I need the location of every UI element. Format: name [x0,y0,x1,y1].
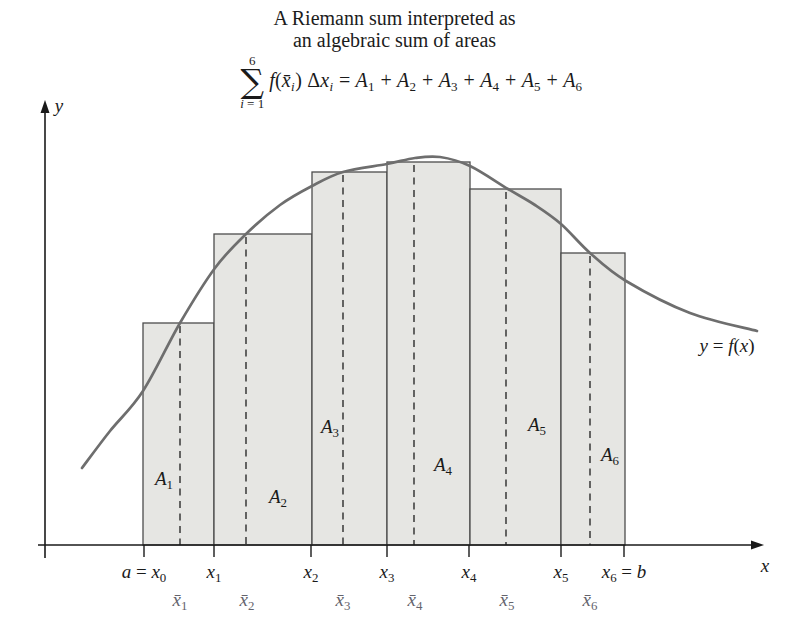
x-tick-label-3: x3 [379,561,395,585]
riemann-sum-figure: A Riemann sum interpreted as an algebrai… [0,0,789,623]
sample-point-label-2: x̄2 [239,589,255,613]
sample-point-label-4: x̄4 [407,589,423,613]
sample-point-label-6: x̄6 [582,589,598,613]
x-tick-label-6: x6 = b [601,561,647,585]
riemann-diagram-canvas: A1A2A3A4A5A6y = f(x)yxa = x0x1x2x3x4x5x6… [0,0,789,623]
x-tick-label-2: x2 [303,561,319,585]
area-rect-A6 [561,253,625,545]
curve-equation-label: y = f(x) [697,335,754,357]
x-tick-label-4: x4 [461,561,477,585]
area-rect-A2 [214,234,312,545]
sample-point-label-1: x̄1 [172,589,188,613]
area-rect-A4 [387,162,470,545]
sample-point-label-5: x̄5 [499,589,515,613]
y-axis-label: y [53,95,64,116]
sample-point-label-3: x̄3 [335,589,351,613]
x-tick-label-1: x1 [206,561,222,585]
x-tick-label-5: x5 [553,561,569,585]
x-axis-arrow-icon [751,541,764,550]
area-rect-A3 [312,172,387,545]
y-axis-arrow-icon [41,100,50,113]
x-tick-label-0: a = x0 [122,561,167,585]
area-rect-A1 [143,323,214,545]
x-axis-label: x [760,555,770,576]
area-rect-A5 [470,189,561,545]
